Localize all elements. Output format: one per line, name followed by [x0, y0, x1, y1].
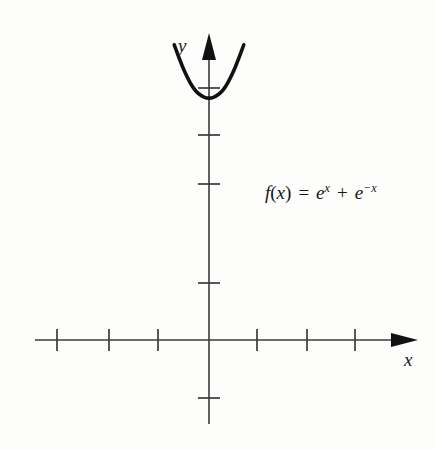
function-formula-annotation: f(x)=ex+e−x: [265, 183, 377, 202]
function-plot-figure: y x f(x)=ex+e−x: [0, 0, 435, 449]
formula-e-first: e: [316, 182, 324, 203]
plot-canvas: [0, 0, 435, 449]
y-axis-label: y: [178, 36, 186, 55]
formula-variable: x: [277, 182, 285, 203]
formula-equals: =: [291, 182, 316, 203]
x-axis-arrowhead: [391, 333, 418, 347]
y-axis-arrowhead: [202, 33, 216, 60]
formula-plus: +: [330, 182, 355, 203]
formula-exponent-second: −x: [363, 181, 377, 195]
formula-e-second: e: [355, 182, 363, 203]
x-axis-label: x: [404, 350, 412, 369]
